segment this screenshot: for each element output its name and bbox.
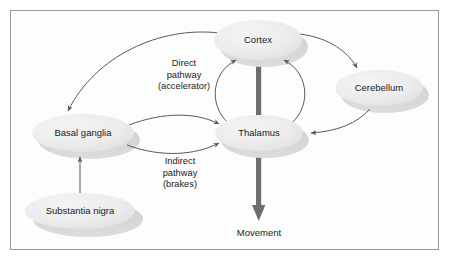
indirect-pathway-line-2: pathway xyxy=(124,168,236,180)
edge-basal-ganglia-to-thalamus-indirect xyxy=(127,143,219,153)
label-movement: Movement xyxy=(209,227,309,238)
indirect-pathway-line-1: Indirect xyxy=(124,156,236,168)
indirect-pathway-line-3: (brakes) xyxy=(124,179,236,191)
direct-pathway-line-2: pathway xyxy=(128,70,240,82)
node-thalamus[interactable] xyxy=(215,115,303,151)
node-basal-ganglia[interactable] xyxy=(32,114,134,152)
edge-cortex-to-cerebellum xyxy=(300,34,357,68)
node-substantia-nigra[interactable] xyxy=(25,193,135,229)
diagram-canvas: Cortex Cerebellum Basal ganglia Thalamus… xyxy=(0,0,451,266)
label-direct-pathway: Direct pathway (accelerator) xyxy=(128,58,240,93)
node-cerebellum[interactable] xyxy=(335,70,423,106)
node-cortex[interactable] xyxy=(214,20,302,60)
direct-pathway-line-1: Direct xyxy=(128,58,240,70)
label-indirect-pathway: Indirect pathway (brakes) xyxy=(124,156,236,191)
direct-pathway-line-3: (accelerator) xyxy=(128,81,240,93)
edge-basal-ganglia-to-thalamus-direct xyxy=(129,115,219,125)
edge-cerebellum-to-thalamus xyxy=(311,109,370,133)
edge-thalamus-to-cortex-right xyxy=(284,60,305,126)
movement-arrowhead xyxy=(252,205,265,221)
